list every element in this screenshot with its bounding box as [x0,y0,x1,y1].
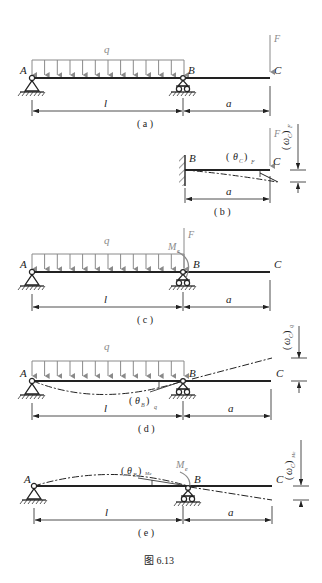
panel-caption: ( d ) [138,423,155,435]
label-B: B [189,152,196,164]
label-l: l [105,506,108,518]
wall-hatch-icon [179,155,185,186]
svg-text:(: ( [129,395,133,407]
svg-text:ω: ω [280,138,291,145]
svg-text:ω: ω [283,468,294,475]
panel-c: q F M e A B C l a ( c ) [18,228,282,326]
overhang-deflected-line [190,487,272,500]
svg-text:(: ( [281,346,293,350]
label-a: a [228,506,234,518]
svg-text:M: M [175,459,185,470]
svg-text:Me: Me [291,451,296,459]
svg-text:B: B [141,402,145,408]
theta-B-Me-label: ( θ B ) Me [121,465,152,478]
svg-text:ω: ω [281,338,292,345]
svg-text:): ) [281,331,293,334]
overhang-deflected-line [192,358,272,379]
svg-text:Me: Me [144,471,152,476]
theta-C-F-label: ( θ C ) F [226,151,255,165]
label-Me: M e [167,241,180,254]
figure-caption: 图 6.13 [144,555,174,566]
svg-text:q: q [154,404,157,410]
svg-text:e: e [177,248,180,254]
label-A: A [19,367,27,379]
label-F: F [187,229,195,240]
label-q: q [104,340,110,352]
label-B: B [194,473,201,485]
panel-caption: ( b ) [214,206,231,218]
svg-text:q: q [288,325,294,328]
distributed-load-arrows [32,254,184,269]
label-B: B [189,367,196,379]
label-q: q [104,234,110,246]
svg-text:M: M [167,241,177,252]
panel-b: F B C ( θ C ) F ( ω C ) F a ( b ) [179,124,306,218]
svg-text:(: ( [226,151,230,163]
panel-caption: ( c ) [137,314,153,326]
label-a: a [228,402,234,414]
deflected-shape [185,170,277,182]
svg-text:): ) [146,395,149,407]
svg-text:θ: θ [135,395,140,406]
label-B: B [193,258,200,270]
label-A: A [19,64,27,76]
svg-text:): ) [280,131,292,134]
svg-text:(: ( [280,146,292,150]
label-a: a [226,185,232,197]
svg-text:F: F [287,124,293,129]
label-B: B [188,64,195,76]
distributed-load-arrows [32,361,184,376]
panel-caption: ( a ) [137,118,153,130]
label-Me: M e [175,459,188,472]
label-A: A [19,258,27,270]
label-q: q [104,43,110,55]
label-C: C [276,367,284,379]
label-A: A [23,473,31,485]
tangent-line [138,478,188,486]
distributed-load-arrows [32,60,184,75]
deflected-shape [33,381,183,395]
label-a: a [226,97,232,109]
label-C: C [274,258,282,270]
svg-text:): ) [283,461,295,464]
label-C: C [274,64,282,76]
svg-text:(: ( [283,476,295,480]
label-l: l [104,97,107,109]
panel-a: q A B C F l a ( a ) [18,33,282,130]
deflected-shape [34,475,188,487]
svg-text:θ: θ [233,151,238,162]
label-F: F [273,33,281,44]
svg-text:e: e [185,466,188,472]
svg-text:F: F [250,159,255,165]
roller-support-icon [174,486,201,506]
label-l: l [104,293,107,305]
svg-text:B: B [133,472,137,478]
omega-C-Me-label: ( ω C ) Me [283,451,296,480]
label-a: a [226,293,232,305]
omega-C-q-label: ( ω C ) q [281,325,294,350]
theta-B-q-label: ( θ B ) q [129,395,157,410]
panel-d: q A B C ( θ B ) q ( ω C ) q [18,325,307,435]
label-l: l [104,402,107,414]
omega-C-F-label: ( ω C ) F [280,124,293,150]
figure-canvas: q A B C F l a ( a ) F B C ( θ C [0,0,322,583]
label-C: C [273,155,281,167]
panel-e: M e A B C ( θ B ) Me ( ω C ) Me l [20,440,309,539]
svg-text:): ) [244,151,247,163]
svg-text:θ: θ [127,465,132,476]
panel-caption: ( e ) [138,527,154,539]
svg-text:): ) [138,465,141,477]
